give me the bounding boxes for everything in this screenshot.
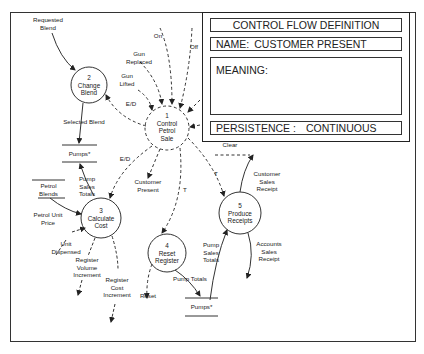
flow-requested-blend: RequestedBlend xyxy=(28,16,68,31)
store-petrol-blends: Petrol Blends xyxy=(32,182,65,197)
definition-meaning-row: MEANING: xyxy=(210,57,402,115)
flow-customer-present: CustomerPresent xyxy=(130,178,166,193)
flow-on: On xyxy=(148,32,168,40)
flow-gun-lifted: GunLifted xyxy=(116,72,138,87)
flow-customer-sales-receipt: CustomerSalesReceipt xyxy=(250,170,284,193)
flow-register-volume-increment: RegisterVolumeIncrement xyxy=(70,256,104,279)
definition-persistence-row: PERSISTENCE : CONTINUOUS xyxy=(210,121,402,135)
flow-t-right: T xyxy=(212,170,220,178)
flow-t-middle: T xyxy=(181,186,189,194)
name-value: CUSTOMER PRESENT xyxy=(254,38,366,50)
process-2-label: 2 Change Blend xyxy=(69,74,109,97)
definition-title: CONTROL FLOW DEFINITION xyxy=(210,18,402,32)
process-1-label: 1 Control Petrol Sale xyxy=(147,112,187,142)
flow-ed-left: E/D xyxy=(116,155,134,163)
persistence-value: CONTINUOUS xyxy=(306,122,377,134)
flow-accounts-sales-receipt: AccountsSalesReceipt xyxy=(252,240,286,263)
flow-gun-replaced: GunReplaced xyxy=(122,50,156,65)
flow-register-cost-increment: RegisterCostIncrement xyxy=(100,276,134,299)
flow-pump-sales-totals-right: PumpSalesTotals xyxy=(199,241,223,264)
flow-off: Off xyxy=(186,43,202,51)
flow-unit-dispensed: UnitDispensed xyxy=(48,240,84,255)
data-flow-diagram: 1 Control Petrol Sale 2 Change Blend 3 C… xyxy=(0,0,424,354)
store-pumps-bottom: Pumps* xyxy=(185,303,218,311)
meaning-label: MEANING: xyxy=(216,64,268,76)
flow-pump-sales-totals-left: PumpSalesTotals xyxy=(76,175,98,198)
flow-selected-blend: Selected Blend xyxy=(59,118,109,126)
process-5-label: 5 Produce Receipts xyxy=(220,202,260,225)
flow-petrol-unit-price: Petrol UnitPrice xyxy=(28,211,68,226)
flow-clear: Clear xyxy=(220,141,240,149)
flow-reset: Reset xyxy=(138,292,158,300)
flow-ed-top: E/D xyxy=(122,100,140,108)
process-4-label: 4 Reset Register xyxy=(147,242,187,265)
control-flow-definition-panel: CONTROL FLOW DEFINITION NAME: CUSTOMER P… xyxy=(202,12,410,142)
name-label: NAME: xyxy=(216,38,249,50)
process-3-label: 3 Calculate Cost xyxy=(81,207,121,230)
persistence-label: PERSISTENCE : xyxy=(216,122,296,134)
store-pumps-top: Pumps* xyxy=(62,150,97,158)
definition-name-row: NAME: CUSTOMER PRESENT xyxy=(210,37,402,51)
flow-pump-totals: Pump Totals xyxy=(170,275,210,283)
